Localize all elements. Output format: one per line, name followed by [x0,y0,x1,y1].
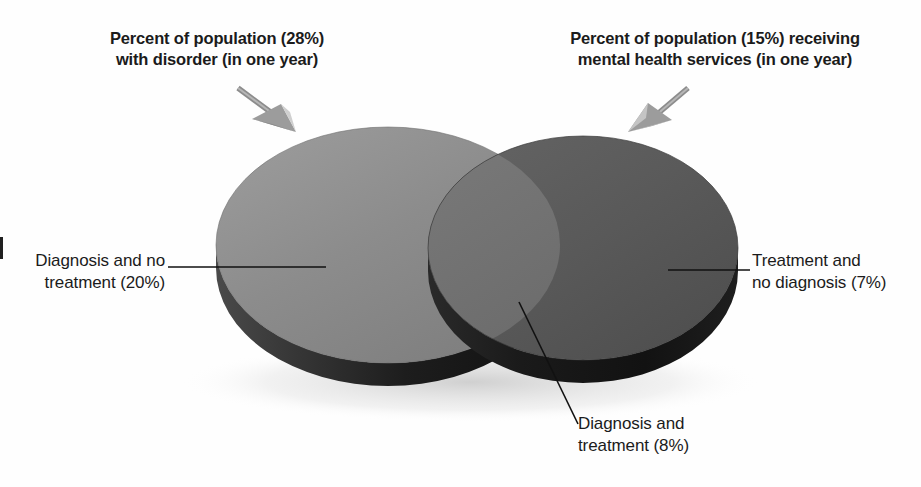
label-left-only-region: Diagnosis and no treatment (20%) [10,250,165,294]
venn-diagram-canvas [0,0,921,487]
label-right-set-title: Percent of population (15%) receiving me… [520,28,910,70]
label-left-set-title: Percent of population (28%) with disorde… [52,28,382,70]
arrow-down-left-icon [628,88,688,132]
label-intersection-region: Diagnosis and treatment (8%) [578,413,768,457]
scan-edge-artifact [0,237,3,259]
right-disc [428,136,738,383]
label-right-only-region: Treatment and no diagnosis (7%) [752,250,917,294]
venn-diagram-figure: Percent of population (28%) with disorde… [0,0,921,487]
arrow-down-right-icon [238,88,296,132]
